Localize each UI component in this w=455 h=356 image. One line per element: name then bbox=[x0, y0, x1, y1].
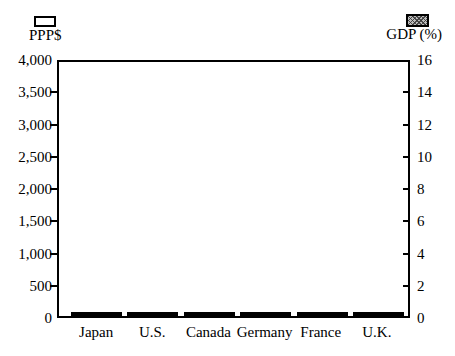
category-label-text: U.K. bbox=[362, 324, 391, 341]
left-axis-tick-mark bbox=[50, 285, 57, 287]
bar-group-us bbox=[126, 312, 180, 316]
bar-gdp-france bbox=[318, 312, 348, 316]
category-axis: JapanU.S.CanadaGermanyFranceU.K. bbox=[67, 324, 406, 341]
legend-gdp-label: GDP (%) bbox=[386, 26, 442, 43]
category-label-germany: Germany bbox=[238, 324, 292, 341]
plot-area bbox=[57, 60, 410, 318]
right-axis-tick-mark bbox=[403, 124, 410, 126]
left-axis-tick-label-3000: 3,000 bbox=[0, 116, 52, 134]
left-axis-tick-label-1500: 1,500 bbox=[0, 212, 52, 230]
left-axis-tick-label-2500: 2,500 bbox=[0, 148, 52, 166]
bar-group-japan bbox=[69, 312, 123, 316]
category-label-canada: Canada bbox=[181, 324, 235, 341]
category-label-text: France bbox=[300, 324, 341, 341]
left-axis-tick-mark bbox=[50, 91, 57, 93]
category-label-text: U.S. bbox=[139, 324, 166, 341]
dual-axis-bar-chart: PPP$ GDP (%) 05001,0001,5002,0002,5003,0… bbox=[0, 0, 455, 356]
bar-gdp-germany bbox=[261, 312, 291, 316]
right-axis-tick-mark bbox=[403, 156, 410, 158]
right-axis-tick-label-12: 12 bbox=[417, 116, 453, 134]
bar-group-germany bbox=[239, 312, 293, 316]
left-axis-tick-mark bbox=[50, 220, 57, 222]
bar-gdp-uk bbox=[374, 312, 404, 316]
bar-group-france bbox=[295, 312, 349, 316]
right-axis-tick-mark bbox=[403, 285, 410, 287]
left-axis-tick-label-2000: 2,000 bbox=[0, 180, 52, 198]
left-axis-tick-label-500: 500 bbox=[0, 277, 52, 295]
right-axis-tick-label-16: 16 bbox=[417, 51, 453, 69]
left-axis-tick-label-3500: 3,500 bbox=[0, 83, 52, 101]
right-axis-tick-mark bbox=[403, 220, 410, 222]
right-axis-tick-label-4: 4 bbox=[417, 245, 453, 263]
category-label-text: Japan bbox=[79, 324, 113, 341]
bars-layer bbox=[67, 62, 408, 316]
right-axis-tick-mark bbox=[403, 253, 410, 255]
left-axis-tick-mark bbox=[50, 188, 57, 190]
legend-ppp-label: PPP$ bbox=[29, 27, 62, 44]
category-label-us: U.S. bbox=[125, 324, 179, 341]
left-axis-tick-mark bbox=[50, 124, 57, 126]
category-label-text: Germany bbox=[237, 324, 293, 341]
bar-group-uk bbox=[352, 312, 406, 316]
right-axis-tick-mark bbox=[403, 188, 410, 190]
left-axis-tick-label-4000: 4,000 bbox=[0, 51, 52, 69]
left-axis-tick-mark bbox=[50, 156, 57, 158]
bar-group-canada bbox=[182, 312, 236, 316]
category-label-uk: U.K. bbox=[350, 324, 404, 341]
bar-gdp-us bbox=[148, 312, 178, 316]
right-axis-tick-label-10: 10 bbox=[417, 148, 453, 166]
left-axis-tick-label-1000: 1,000 bbox=[0, 245, 52, 263]
right-axis-tick-label-14: 14 bbox=[417, 83, 453, 101]
right-axis-tick-label-6: 6 bbox=[417, 212, 453, 230]
category-label-japan: Japan bbox=[69, 324, 123, 341]
legend-ppp-swatch bbox=[34, 16, 56, 27]
bar-gdp-japan bbox=[92, 312, 122, 316]
category-label-text: Canada bbox=[186, 324, 231, 341]
category-label-france: France bbox=[294, 324, 348, 341]
bar-gdp-canada bbox=[205, 312, 235, 316]
left-axis-tick-label-0: 0 bbox=[0, 309, 52, 327]
right-axis-tick-label-2: 2 bbox=[417, 277, 453, 295]
right-axis-tick-label-0: 0 bbox=[417, 309, 453, 327]
right-axis-tick-label-8: 8 bbox=[417, 180, 453, 198]
left-axis-tick-mark bbox=[50, 253, 57, 255]
right-axis-tick-mark bbox=[403, 91, 410, 93]
